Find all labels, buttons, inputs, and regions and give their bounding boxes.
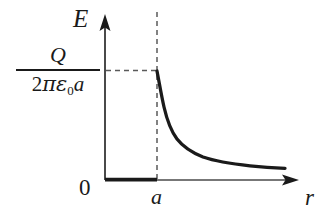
electric-field-plot	[0, 0, 335, 223]
pi-symbol: π	[42, 72, 56, 96]
peak-value-fraction-label: Q 2πε0a	[16, 43, 100, 98]
origin-label: 0	[79, 176, 91, 199]
fraction-numerator: Q	[16, 43, 100, 68]
fraction-denominator: 2πε0a	[16, 73, 100, 98]
fraction-bar	[16, 69, 100, 71]
epsilon-symbol: ε	[56, 72, 67, 96]
denominator-coefficient: 2	[32, 72, 43, 96]
y-axis-label: E	[73, 6, 88, 31]
field-outside-curve	[157, 71, 285, 168]
x-axis-label: r	[305, 186, 314, 209]
denominator-radius: a	[74, 72, 85, 96]
figure-container: E r 0 a Q 2πε0a	[0, 0, 335, 223]
x-tick-label-a: a	[151, 186, 162, 208]
